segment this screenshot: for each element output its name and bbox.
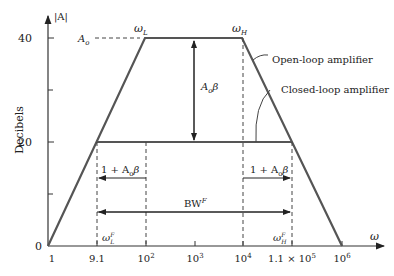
y-top-label: |A|	[54, 11, 68, 23]
closed-loop-label: Closed-loop amplifier	[281, 84, 389, 95]
x-tick-1e2: 102	[137, 252, 154, 264]
x-tick-1e6: 106	[333, 252, 351, 264]
x-tick-9-1: 9.1	[89, 253, 105, 264]
ao-beta-label: Aoβ	[200, 81, 218, 95]
x-tick-1-1e5: 1.1 × 105	[268, 252, 316, 264]
y-tick-0: 0	[35, 240, 42, 253]
omega-h-label: ωH	[232, 22, 248, 37]
x-axis-label: ω	[370, 230, 379, 243]
one-plus-ao-beta-right: 1 + Aoβ	[250, 164, 289, 178]
omega-hf-label: ωFH	[273, 231, 287, 245]
y-axis-label: Decibels	[13, 106, 26, 154]
omega-lf-label: ωFL	[102, 231, 115, 245]
one-plus-ao-beta-left: 1 + Aoβ	[101, 164, 140, 178]
open-loop-label: Open-loop amplifier	[272, 54, 373, 65]
bode-diagram: |A| 40 20 0 Decibels 1 9.1 102 103 104 1…	[0, 0, 394, 276]
y-tick-40: 40	[18, 32, 32, 45]
omega-l-label: ωL	[134, 22, 148, 37]
ao-label: Ao	[77, 33, 89, 47]
x-tick-1e3: 103	[186, 252, 203, 264]
x-tick-1e4: 104	[234, 252, 252, 264]
bandwidth-label: BWF	[184, 197, 208, 209]
x-tick-1: 1	[49, 253, 55, 264]
